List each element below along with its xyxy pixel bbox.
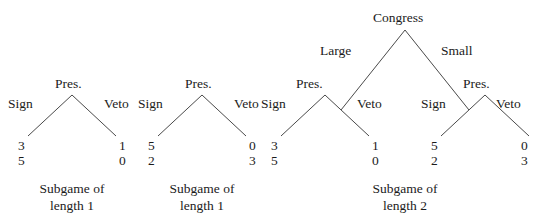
subgame2-caption-line2: length 1 xyxy=(130,197,274,214)
subgame2-caption: Subgame of length 1 xyxy=(130,180,274,214)
subgame3-right-payoff-sign-bottom: 2 xyxy=(431,153,438,168)
subgame3-action-small-label: Small xyxy=(441,44,473,58)
subgame1-payoff-right: 1 0 xyxy=(119,138,126,168)
subgame1-caption: Subgame of length 1 xyxy=(0,180,144,214)
subgame3-left-payoff-veto: 1 0 xyxy=(372,138,379,168)
edge-subgame3-right-sign xyxy=(441,95,485,136)
subgame1-payoff-left-bottom: 5 xyxy=(18,153,25,168)
subgame2-action-right-label: Veto xyxy=(234,97,259,111)
edge-subgame2-sign xyxy=(158,95,202,136)
subgame2-payoff-left-bottom: 2 xyxy=(148,153,155,168)
subgame3-right-payoff-sign: 5 2 xyxy=(431,138,438,168)
subgame2-payoff-left-top: 5 xyxy=(148,138,155,153)
edge-subgame1-sign xyxy=(28,95,72,136)
subgame3-right-player-label: Pres. xyxy=(463,77,490,91)
subgame3-left-payoff-sign-bottom: 5 xyxy=(271,153,278,168)
subgame3-left-action-sign-label: Sign xyxy=(261,97,286,111)
subgame2-payoff-right-bottom: 3 xyxy=(249,153,256,168)
subgame2-payoff-right: 0 3 xyxy=(249,138,256,168)
subgame1-payoff-left: 3 5 xyxy=(18,138,25,168)
subgame3-right-payoff-veto-bottom: 3 xyxy=(521,153,528,168)
subgame1-action-left-label: Sign xyxy=(8,97,33,111)
subgame3-action-large-label: Large xyxy=(320,44,351,58)
subgame2-payoff-right-top: 0 xyxy=(249,138,256,153)
subgame3-root-player-label: Congress xyxy=(373,11,423,25)
subgame3-right-action-sign-label: Sign xyxy=(421,97,446,111)
subgame1-action-right-label: Veto xyxy=(104,97,129,111)
subgame3-left-payoff-veto-top: 1 xyxy=(372,138,379,153)
subgame3-caption-line2: length 2 xyxy=(333,197,477,214)
subgame2-action-left-label: Sign xyxy=(138,97,163,111)
subgame1-root-player-label: Pres. xyxy=(55,77,82,91)
subgame1-payoff-right-bottom: 0 xyxy=(119,153,126,168)
subgame2-root-player-label: Pres. xyxy=(185,77,212,91)
subgame3-caption-line1: Subgame of xyxy=(333,180,477,197)
subgame3-right-payoff-veto: 0 3 xyxy=(521,138,528,168)
subgame2-caption-line1: Subgame of xyxy=(130,180,274,197)
subgame3-right-payoff-veto-top: 0 xyxy=(521,138,528,153)
subgame3-right-action-veto-label: Veto xyxy=(496,97,521,111)
subgame1-payoff-left-top: 3 xyxy=(18,138,25,153)
subgame3-left-player-label: Pres. xyxy=(296,77,323,91)
subgame3-left-payoff-sign: 3 5 xyxy=(271,138,278,168)
game-tree-figure: Pres. Sign Veto 3 5 1 0 Subgame of lengt… xyxy=(0,0,535,219)
subgame1-caption-line2: length 1 xyxy=(0,197,144,214)
subgame1-caption-line1: Subgame of xyxy=(0,180,144,197)
edge-subgame3-left-sign xyxy=(281,95,325,136)
subgame3-left-action-veto-label: Veto xyxy=(357,97,382,111)
subgame2-payoff-left: 5 2 xyxy=(148,138,155,168)
subgame3-left-payoff-sign-top: 3 xyxy=(271,138,278,153)
subgame3-caption: Subgame of length 2 xyxy=(333,180,477,214)
subgame3-left-payoff-veto-bottom: 0 xyxy=(372,153,379,168)
subgame3-right-payoff-sign-top: 5 xyxy=(431,138,438,153)
subgame1-payoff-right-top: 1 xyxy=(119,138,126,153)
